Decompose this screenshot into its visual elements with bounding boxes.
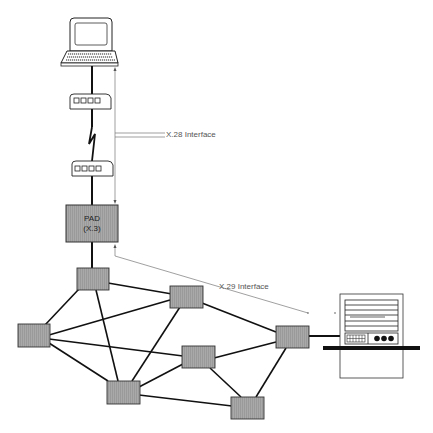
- modem-top: [70, 94, 111, 109]
- network-node-n2: [170, 286, 203, 308]
- lightning-link-icon: [89, 127, 95, 161]
- network-node-n4: [182, 346, 215, 368]
- x28-interface-label: X.28 Interface: [166, 130, 216, 139]
- x29-annotation-lines: [114, 244, 309, 314]
- network-node-n5: [276, 326, 309, 348]
- pad-title: PAD: [66, 214, 118, 224]
- host-shelf: [323, 346, 420, 350]
- modem-bottom: [72, 161, 113, 176]
- network-node-n1: [77, 268, 109, 290]
- pad-label: PAD (X.3): [66, 214, 118, 234]
- network-diagram: [0, 0, 433, 433]
- network-node-n3: [18, 324, 50, 347]
- laptop-terminal-icon: [61, 18, 118, 66]
- pad-subtitle: (X.3): [66, 224, 118, 234]
- network-node-n6: [107, 381, 140, 404]
- x28-annotation-lines: [114, 67, 166, 204]
- x29-interface-label: X.29 Interface: [219, 282, 269, 291]
- network-node-n7: [231, 397, 264, 419]
